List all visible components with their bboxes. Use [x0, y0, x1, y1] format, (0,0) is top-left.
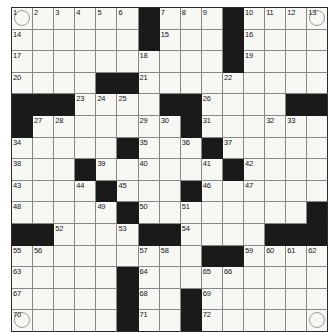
open-square[interactable]	[160, 181, 181, 203]
open-square[interactable]	[223, 181, 244, 203]
open-square[interactable]	[244, 310, 265, 332]
letter-entry[interactable]	[33, 267, 53, 288]
open-square[interactable]: 52	[54, 224, 75, 246]
open-square[interactable]	[33, 181, 54, 203]
open-square[interactable]: 18	[139, 51, 160, 73]
open-square[interactable]: 63	[12, 267, 33, 289]
letter-entry[interactable]	[286, 138, 306, 159]
letter-entry[interactable]	[286, 30, 306, 51]
letter-entry[interactable]	[75, 138, 95, 159]
open-square[interactable]: 56	[33, 246, 54, 268]
open-square[interactable]: 53	[117, 224, 138, 246]
open-square[interactable]: 66	[223, 267, 244, 289]
open-square[interactable]: 41	[202, 159, 223, 181]
open-square[interactable]	[117, 51, 138, 73]
letter-entry[interactable]	[307, 159, 327, 180]
letter-entry[interactable]	[75, 30, 95, 51]
open-square[interactable]: 42	[244, 159, 265, 181]
circled-square[interactable]: 13	[307, 8, 328, 30]
open-square[interactable]	[223, 224, 244, 246]
letter-entry[interactable]	[244, 94, 264, 115]
open-square[interactable]	[307, 181, 328, 203]
letter-entry[interactable]	[54, 51, 74, 72]
letter-entry[interactable]	[139, 181, 159, 202]
open-square[interactable]: 57	[139, 246, 160, 268]
open-square[interactable]: 38	[12, 159, 33, 181]
open-square[interactable]: 49	[96, 202, 117, 224]
open-square[interactable]	[265, 51, 286, 73]
open-square[interactable]	[33, 73, 54, 95]
letter-entry[interactable]	[33, 51, 53, 72]
open-square[interactable]	[75, 224, 96, 246]
letter-entry[interactable]	[181, 30, 201, 51]
open-square[interactable]	[307, 116, 328, 138]
letter-entry[interactable]	[307, 310, 327, 331]
open-square[interactable]	[286, 202, 307, 224]
open-square[interactable]: 55	[12, 246, 33, 268]
letter-entry[interactable]	[54, 202, 74, 223]
letter-entry[interactable]	[75, 289, 95, 310]
open-square[interactable]	[160, 202, 181, 224]
letter-entry[interactable]	[117, 51, 137, 72]
open-square[interactable]	[75, 289, 96, 311]
open-square[interactable]	[202, 73, 223, 95]
letter-entry[interactable]	[244, 310, 264, 331]
open-square[interactable]	[286, 138, 307, 160]
open-square[interactable]: 44	[75, 181, 96, 203]
open-square[interactable]: 59	[244, 246, 265, 268]
letter-entry[interactable]	[96, 267, 116, 288]
open-square[interactable]	[244, 289, 265, 311]
letter-entry[interactable]	[75, 202, 95, 223]
open-square[interactable]	[202, 202, 223, 224]
letter-entry[interactable]	[244, 289, 264, 310]
open-square[interactable]	[33, 267, 54, 289]
open-square[interactable]	[181, 51, 202, 73]
circled-square[interactable]: 70	[12, 310, 33, 332]
letter-entry[interactable]	[202, 30, 222, 51]
letter-entry[interactable]	[286, 51, 306, 72]
open-square[interactable]: 65	[202, 267, 223, 289]
open-square[interactable]	[160, 159, 181, 181]
open-square[interactable]: 25	[117, 94, 138, 116]
letter-entry[interactable]	[117, 246, 137, 267]
letter-entry[interactable]	[160, 138, 180, 159]
open-square[interactable]	[223, 310, 244, 332]
letter-entry[interactable]	[286, 310, 306, 331]
letter-entry[interactable]	[202, 51, 222, 72]
letter-entry[interactable]	[33, 181, 53, 202]
open-square[interactable]	[286, 73, 307, 95]
letter-entry[interactable]	[160, 202, 180, 223]
open-square[interactable]: 39	[96, 159, 117, 181]
open-square[interactable]	[96, 51, 117, 73]
open-square[interactable]	[139, 94, 160, 116]
circled-square[interactable]	[307, 310, 328, 332]
open-square[interactable]	[75, 138, 96, 160]
open-square[interactable]	[286, 181, 307, 203]
open-square[interactable]: 2	[33, 8, 54, 30]
open-square[interactable]	[286, 289, 307, 311]
letter-entry[interactable]	[307, 73, 327, 94]
open-square[interactable]	[223, 116, 244, 138]
letter-entry[interactable]	[181, 246, 201, 267]
open-square[interactable]	[33, 159, 54, 181]
letter-entry[interactable]	[75, 310, 95, 331]
open-square[interactable]: 58	[160, 246, 181, 268]
open-square[interactable]	[117, 116, 138, 138]
open-square[interactable]	[265, 181, 286, 203]
letter-entry[interactable]	[181, 73, 201, 94]
open-square[interactable]	[286, 310, 307, 332]
open-square[interactable]: 16	[244, 30, 265, 52]
open-square[interactable]	[75, 116, 96, 138]
open-square[interactable]	[96, 267, 117, 289]
letter-entry[interactable]	[33, 289, 53, 310]
letter-entry[interactable]	[160, 181, 180, 202]
open-square[interactable]	[307, 159, 328, 181]
open-square[interactable]	[181, 159, 202, 181]
open-square[interactable]	[75, 267, 96, 289]
letter-entry[interactable]	[160, 51, 180, 72]
letter-entry[interactable]	[202, 224, 222, 245]
letter-entry[interactable]	[286, 289, 306, 310]
letter-entry[interactable]	[54, 267, 74, 288]
letter-entry[interactable]	[265, 159, 285, 180]
open-square[interactable]	[54, 246, 75, 268]
